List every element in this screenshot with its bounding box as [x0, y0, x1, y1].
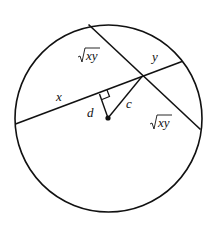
circle-diagram: x y d c xy xy [0, 0, 216, 228]
label-c: c [126, 96, 132, 111]
label-x: x [55, 89, 62, 104]
label-y: y [150, 49, 158, 64]
svg-text:xy: xy [157, 115, 170, 130]
svg-text:xy: xy [85, 48, 98, 63]
chord-sqrt-xy [89, 25, 201, 130]
label-d: d [87, 105, 94, 120]
label-sqrt-xy-top: xy [78, 48, 100, 63]
label-sqrt-xy-bottom: xy [150, 115, 172, 130]
center-point [105, 115, 110, 120]
